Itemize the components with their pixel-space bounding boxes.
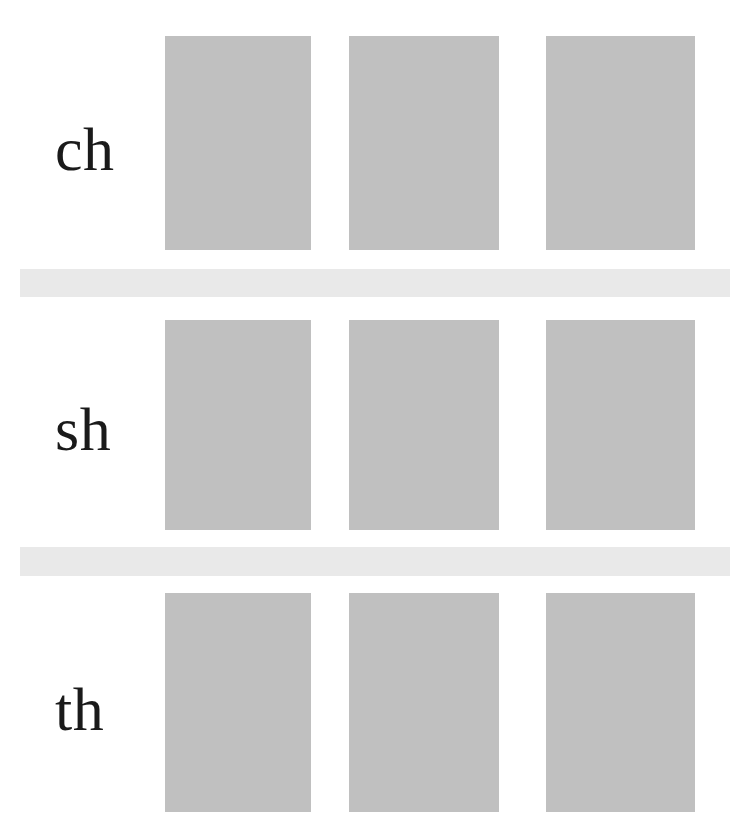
image-placeholder: [349, 320, 499, 530]
page-canvas: chshth: [0, 0, 749, 840]
image-placeholder: [546, 320, 695, 530]
row-label-th: th: [55, 678, 155, 740]
divider-band: [20, 269, 730, 297]
image-placeholder: [349, 593, 499, 812]
image-placeholder: [165, 320, 311, 530]
image-placeholder: [349, 36, 499, 250]
image-placeholder: [165, 593, 311, 812]
row-label-sh: sh: [55, 398, 155, 460]
row-label-ch: ch: [55, 118, 155, 180]
image-placeholder: [546, 36, 695, 250]
image-placeholder: [165, 36, 311, 250]
image-placeholder: [546, 593, 695, 812]
divider-band: [20, 547, 730, 576]
